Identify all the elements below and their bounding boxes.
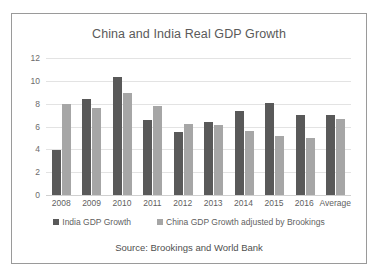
bar — [296, 115, 305, 195]
bar-group — [138, 58, 169, 195]
legend-swatch-icon — [157, 219, 163, 225]
x-axis-tick-label: 2014 — [228, 198, 258, 208]
bar-groups — [46, 58, 351, 195]
bar-group — [168, 58, 199, 195]
bar — [214, 125, 223, 195]
chart-frame: China and India Real GDP Growth 02468101… — [11, 13, 367, 264]
bar — [174, 132, 183, 195]
bar — [62, 104, 71, 195]
x-axis-tick-label: 2012 — [168, 198, 198, 208]
legend-label: India GDP Growth — [62, 217, 131, 227]
bar — [204, 122, 213, 195]
x-axis-tick-labels: 200820092010201120122013201420152016Aver… — [46, 198, 351, 208]
y-axis-tick-label: 0 — [35, 190, 40, 200]
legend-item[interactable]: India GDP Growth — [53, 217, 131, 227]
x-axis-tick-label: 2015 — [259, 198, 289, 208]
x-axis-tick-label: Average — [320, 198, 352, 208]
bar — [123, 93, 132, 195]
bar — [113, 77, 122, 195]
x-axis-tick-label: 2013 — [198, 198, 228, 208]
bar-group — [321, 58, 352, 195]
legend-label: China GDP Growth adjusted by Brookings — [166, 217, 325, 227]
y-axis-tick-label: 10 — [31, 76, 40, 86]
y-axis-tick-label: 12 — [31, 53, 40, 63]
bar — [336, 119, 345, 195]
x-axis-tick-label: 2016 — [289, 198, 319, 208]
bar — [52, 150, 61, 195]
bar — [92, 108, 101, 195]
bar — [235, 111, 244, 195]
x-axis-tick-label: 2009 — [76, 198, 106, 208]
x-axis-tick-label: 2010 — [107, 198, 137, 208]
bar-group — [199, 58, 230, 195]
bar — [184, 124, 193, 195]
bar-group — [290, 58, 321, 195]
bar — [265, 103, 274, 195]
x-axis-tick-label: 2008 — [46, 198, 76, 208]
y-axis-tick-label: 6 — [35, 122, 40, 132]
bar — [326, 115, 335, 195]
bar — [153, 106, 162, 195]
bar — [306, 138, 315, 195]
chart-legend: India GDP GrowthChina GDP Growth adjuste… — [12, 217, 366, 227]
bar — [275, 136, 284, 195]
y-axis-tick-label: 8 — [35, 99, 40, 109]
bar-group — [77, 58, 108, 195]
y-axis-tick-label: 2 — [35, 167, 40, 177]
y-axis-tick-label: 4 — [35, 144, 40, 154]
gridline — [46, 195, 351, 196]
plot-area: 024681012 — [46, 58, 351, 195]
chart-title: China and India Real GDP Growth — [12, 27, 366, 41]
bar-group — [46, 58, 77, 195]
legend-swatch-icon — [53, 219, 59, 225]
x-axis-tick-label: 2011 — [137, 198, 167, 208]
source-note: Source: Brookings and World Bank — [12, 242, 366, 253]
bar-group — [229, 58, 260, 195]
bar — [82, 99, 91, 195]
bar — [143, 120, 152, 195]
bar-group — [260, 58, 291, 195]
legend-item[interactable]: China GDP Growth adjusted by Brookings — [157, 217, 325, 227]
bar — [245, 131, 254, 195]
bar-group — [107, 58, 138, 195]
